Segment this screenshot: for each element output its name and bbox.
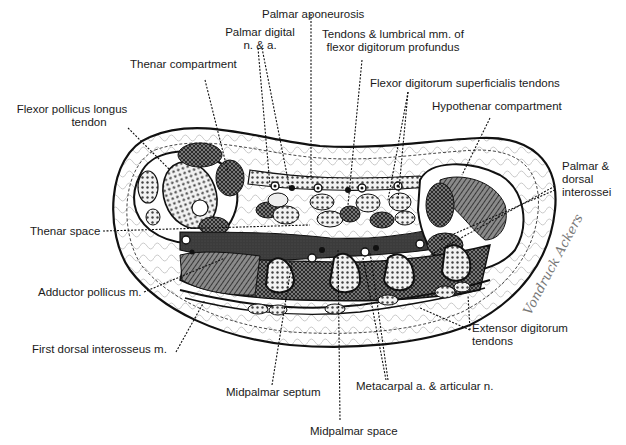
label-fpl-line1: Flexor pollicus longus	[8, 103, 136, 116]
label-tendons-lumbrical-line2: flexor digitorum profundus	[314, 41, 472, 54]
hand-cross-section-drawing	[0, 0, 626, 445]
label-adductor-pollicus: Adductor pollicus m.	[38, 286, 142, 299]
label-extensor-digitorum: Extensor digitorum tendons	[472, 322, 568, 348]
label-fpl-tendon: Flexor pollicus longus tendon	[8, 103, 136, 129]
label-tendons-lumbrical-line1: Tendons & lumbrical mm. of	[314, 28, 472, 41]
label-palmar-dorsal-line1: Palmar &	[562, 160, 611, 173]
label-midpalmar-septum: Midpalmar septum	[226, 386, 321, 399]
label-first-dorsal-interosseus: First dorsal interosseus m.	[32, 343, 167, 356]
label-extensor-line2: tendons	[472, 335, 568, 348]
label-palmar-aponeurosis: Palmar aponeurosis	[262, 8, 364, 21]
label-palmar-digital-line1: Palmar digital	[221, 26, 299, 39]
label-hypothenar-compartment: Hypothenar compartment	[432, 100, 562, 113]
label-fds-tendons: Flexor digitorum superficialis tendons	[370, 77, 560, 90]
label-midpalmar-space: Midpalmar space	[310, 425, 398, 438]
label-thenar-compartment: Thenar compartment	[130, 58, 237, 71]
label-metacarpal-artery: Metacarpal a. & articular n.	[356, 380, 493, 393]
label-palmar-dorsal-line2: dorsal	[562, 173, 611, 186]
label-fpl-line2: tendon	[8, 116, 136, 129]
anatomy-figure: Palmar aponeurosis Palmar digital n. & a…	[0, 0, 626, 445]
label-tendons-lumbrical: Tendons & lumbrical mm. of flexor digito…	[314, 28, 472, 54]
label-palmar-digital: Palmar digital n. & a.	[221, 26, 299, 52]
label-palmar-digital-line2: n. & a.	[221, 39, 299, 52]
label-extensor-line1: Extensor digitorum	[472, 322, 568, 335]
label-thenar-space: Thenar space	[30, 225, 100, 238]
label-palmar-dorsal-interossei: Palmar & dorsal interossei	[562, 160, 611, 199]
label-palmar-dorsal-line3: interossei	[562, 186, 611, 199]
